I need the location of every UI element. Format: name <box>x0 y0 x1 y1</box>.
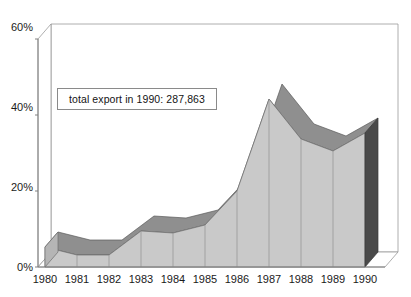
x-tick-label-1985: 1985 <box>193 273 217 285</box>
plot-left-wall <box>38 24 51 267</box>
annotation-callout: total export in 1990: 287,863 <box>57 88 217 110</box>
y-tick-label-0: 0% <box>17 261 33 273</box>
y-tick-label-40: 40% <box>11 101 33 113</box>
x-tick-label-1990: 1990 <box>353 273 377 285</box>
area-end-cap <box>365 118 378 267</box>
x-tick-label-1981: 1981 <box>65 273 89 285</box>
x-tick-label-1986: 1986 <box>225 273 249 285</box>
x-tick-label-1989: 1989 <box>321 273 345 285</box>
x-tick-label-1984: 1984 <box>161 273 185 285</box>
x-tick-label-1980: 1980 <box>33 273 57 285</box>
annotation-text: total export in 1990: 287,863 <box>69 93 205 105</box>
x-tick-label-1988: 1988 <box>289 273 313 285</box>
area-chart-3d: 60% 40% 20% 0% <box>0 0 411 297</box>
x-tick-label-1982: 1982 <box>97 273 121 285</box>
y-tick-label-60: 60% <box>11 21 33 33</box>
x-tick-label-1983: 1983 <box>129 273 153 285</box>
y-axis-tick-labels: 60% 40% 20% 0% <box>11 21 33 273</box>
y-tick-label-20: 20% <box>11 181 33 193</box>
x-tick-label-1987: 1987 <box>257 273 281 285</box>
chart-container: 60% 40% 20% 0% <box>0 0 411 297</box>
x-axis-tick-labels: 1980 1981 1982 1983 1984 1985 1986 1987 … <box>33 273 377 285</box>
